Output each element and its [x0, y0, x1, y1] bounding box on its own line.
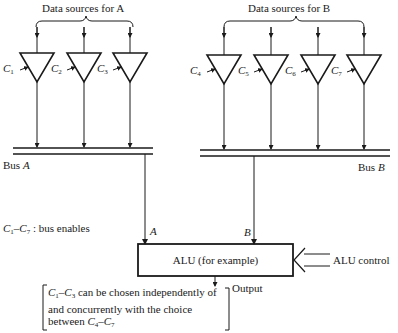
- enable-label-c1: C1: [3, 62, 14, 78]
- brace-a: [36, 16, 133, 27]
- tristate-buffer-c2-icon: [67, 53, 101, 82]
- tristate-buffer-c3-icon: [113, 53, 147, 82]
- alu-input-a-label: A: [150, 225, 157, 237]
- alu-control-label: ALU control: [333, 254, 390, 266]
- tristate-buffer-c7-icon: [347, 55, 381, 84]
- bus-a-label: Bus A: [3, 159, 30, 171]
- tristate-buffer-c5-icon: [254, 55, 288, 84]
- alu-input-b-label: B: [244, 226, 251, 238]
- enable-label-c7: C7: [331, 64, 342, 80]
- bus-b-label: Bus B: [358, 161, 385, 173]
- alu-label: ALU (for example): [138, 254, 293, 266]
- data-sources-b-title: Data sources for B: [248, 2, 330, 14]
- enable-label-c6: C6: [285, 64, 296, 80]
- enable-label-c3: C3: [97, 62, 108, 78]
- tristate-buffer-c1-icon: [20, 53, 54, 82]
- independence-note: C1–C3 can be chosen independently of and…: [48, 286, 228, 332]
- enable-label-c2: C2: [51, 62, 62, 78]
- tristate-buffer-c4-icon: [207, 55, 241, 84]
- output-label: Output: [232, 282, 263, 294]
- enable-label-c4: C4: [190, 64, 201, 80]
- note-bracket: [43, 285, 47, 330]
- bus-diagram-canvas: [0, 0, 398, 333]
- brace-b: [224, 16, 364, 27]
- bus-enables-legend: C1–C7 : bus enables: [3, 222, 90, 238]
- tristate-buffer-c6-icon: [301, 55, 335, 84]
- data-sources-a-title: Data sources for A: [42, 2, 124, 14]
- enable-label-c5: C5: [238, 64, 249, 80]
